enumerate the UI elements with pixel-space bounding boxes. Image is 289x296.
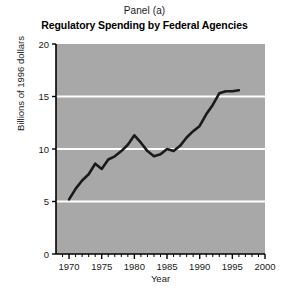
x-tick-label: 1985 — [156, 261, 177, 272]
y-tick-label: 0 — [44, 249, 49, 260]
y-tick-label: 20 — [38, 39, 49, 50]
chart-figure: Panel (a) Regulatory Spending by Federal… — [0, 0, 289, 296]
x-tick-label: 1975 — [91, 261, 112, 272]
y-tick-label: 15 — [38, 91, 49, 102]
x-axis-ticks: 1970197519801985199019952000 — [58, 254, 275, 272]
x-tick-label: 1970 — [58, 261, 79, 272]
plot-canvas: 05101520 1970197519801985199019952000 — [0, 0, 289, 296]
x-axis-label: Year — [56, 273, 265, 284]
x-tick-label: 1990 — [189, 261, 210, 272]
y-axis-ticks: 05101520 — [38, 39, 56, 260]
x-tick-label: 2000 — [254, 261, 275, 272]
y-tick-label: 5 — [44, 196, 49, 207]
x-tick-label: 1995 — [222, 261, 243, 272]
x-tick-label: 1980 — [124, 261, 145, 272]
y-tick-label: 10 — [38, 144, 49, 155]
